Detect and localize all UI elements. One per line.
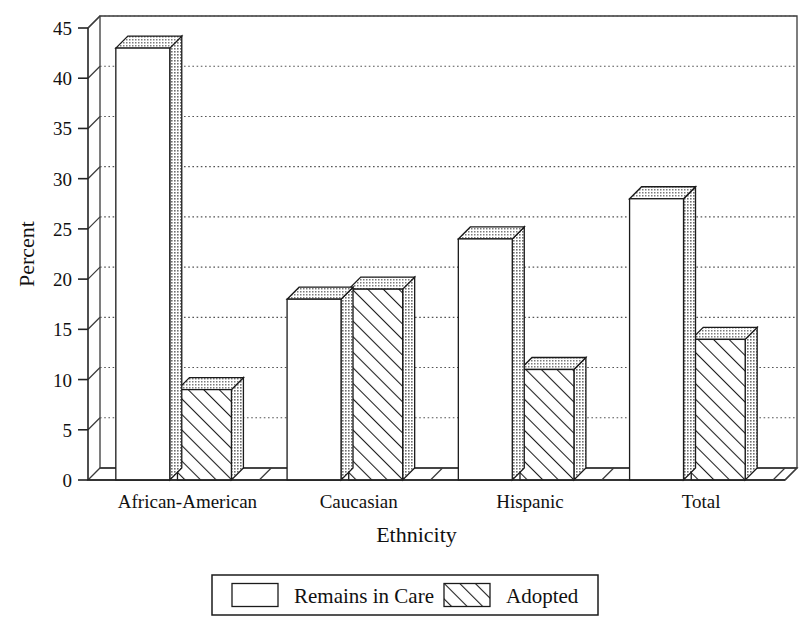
bar-adopted-1	[349, 277, 415, 480]
bar-front-face	[349, 289, 403, 480]
x-tick-label-2: Hispanic	[496, 491, 564, 512]
y-axis-title: Percent	[14, 221, 39, 287]
bar-top-face	[287, 287, 353, 299]
bar-side-face	[745, 327, 757, 480]
y-tick-label: 45	[53, 18, 72, 39]
bar-front-face	[287, 299, 341, 480]
bar-adopted-2	[520, 358, 586, 480]
legend-label-remains-in-care: Remains in Care	[294, 584, 434, 608]
bar-side-face	[341, 287, 353, 480]
bar-remains-in-care-0	[116, 36, 182, 480]
bar-top-face	[520, 358, 586, 370]
bar-front-face	[458, 239, 512, 480]
legend-swatch-remains-in-care	[232, 584, 278, 607]
bar-top-face	[349, 277, 415, 289]
bar-front-face	[116, 48, 170, 480]
bar-side-face	[574, 358, 586, 480]
bar-side-face	[170, 36, 182, 480]
y-tick-label: 15	[53, 319, 72, 340]
bar-front-face	[691, 339, 745, 480]
chart-legend: Remains in CareAdopted	[212, 575, 598, 615]
y-tick-label: 30	[53, 169, 72, 190]
y-tick-label: 10	[53, 370, 72, 391]
bar-top-face	[630, 187, 696, 199]
bar-top-face	[458, 227, 524, 239]
y-tick-label: 0	[63, 470, 73, 491]
x-axis-title: Ethnicity	[376, 522, 457, 547]
bar-side-face	[231, 378, 243, 480]
bar-front-face	[520, 370, 574, 480]
bar-remains-in-care-1	[287, 287, 353, 480]
bar-adopted-0	[177, 378, 243, 480]
bar-side-face	[403, 277, 415, 480]
bar-chart-figure: 051015202530354045African-AmericanCaucas…	[0, 0, 812, 633]
bar-top-face	[177, 378, 243, 390]
x-tick-label-0: African-American	[118, 491, 258, 512]
y-tick-label: 20	[53, 269, 72, 290]
bar-side-face	[512, 227, 524, 480]
bar-front-face	[630, 199, 684, 480]
bar-side-face	[684, 187, 696, 480]
y-tick-label: 40	[53, 68, 72, 89]
bar-top-face	[116, 36, 182, 48]
legend-swatch-adopted	[444, 584, 490, 607]
bars-group	[116, 36, 757, 480]
x-tick-label-3: Total	[682, 491, 721, 512]
bar-top-face	[691, 327, 757, 339]
y-tick-label: 35	[53, 118, 72, 139]
bar-remains-in-care-3	[630, 187, 696, 480]
bar-adopted-3	[691, 327, 757, 480]
x-tick-label-1: Caucasian	[320, 491, 399, 512]
bar-remains-in-care-2	[458, 227, 524, 480]
bar-front-face	[177, 390, 231, 480]
y-tick-label: 25	[53, 219, 72, 240]
y-tick-label: 5	[63, 420, 73, 441]
chart-canvas: 051015202530354045African-AmericanCaucas…	[0, 0, 812, 633]
legend-label-adopted: Adopted	[506, 584, 579, 608]
